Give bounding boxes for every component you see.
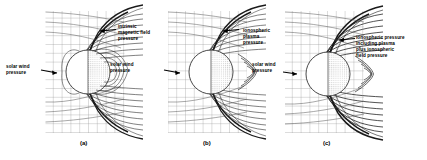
caption-c: (c)	[323, 140, 330, 146]
panel-b-diagram	[141, 0, 284, 160]
planet	[306, 52, 350, 96]
panel-c-diagram	[283, 0, 427, 160]
label-ionospheric-pressure-combined: ionospheric pressure including plasma pl…	[356, 35, 405, 59]
panel-a: solar wind pressure intrinsic magnetic f…	[0, 0, 143, 160]
label-solar-wind-pressure-a: solar wind pressure	[6, 64, 30, 76]
caption-a: (a)	[80, 140, 87, 146]
label-solar-wind-pressure-c: solar wind pressure	[252, 62, 276, 74]
planet	[66, 50, 110, 94]
label-solar-wind-pressure-b: solar wind pressure	[110, 62, 134, 74]
panel-c: ionospheric pressure including plasma pl…	[283, 0, 426, 160]
planet	[189, 50, 233, 94]
label-ionospheric-plasma-pressure: ionospheric plasma pressure	[243, 28, 270, 46]
caption-b: (b)	[203, 140, 211, 146]
panel-b: ionospheric plasma pressure (b)	[141, 0, 284, 160]
